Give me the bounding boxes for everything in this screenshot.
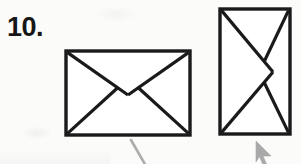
figure-envelope-landscape [66,51,190,135]
figure-envelope-portrait [220,9,290,134]
pencil-mark-diagonal [131,140,146,164]
worksheet-page: 10. [0,0,301,164]
figure-canvas [0,0,301,164]
mouse-cursor-arrow [256,141,271,164]
